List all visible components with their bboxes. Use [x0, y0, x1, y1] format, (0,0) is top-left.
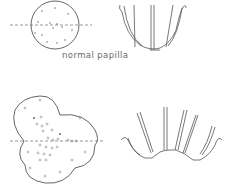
- abnormal-papilla-top-view: [10, 96, 103, 183]
- papilla-diagram-lower: [0, 0, 227, 192]
- abnormal-papilla-side-view: [121, 107, 222, 160]
